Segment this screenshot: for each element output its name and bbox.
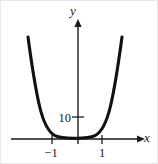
y-tick-label-ten: 10	[59, 111, 72, 125]
arrow-up-icon	[74, 19, 81, 27]
math-figure: x y −1 1 10	[0, 0, 158, 164]
x-axis-label: x	[143, 130, 150, 145]
function-curve	[28, 37, 122, 138]
x-tick-label-minus-one: −1	[44, 146, 57, 160]
x-tick-label-one: 1	[99, 146, 105, 160]
graph-canvas: x y −1 1 10	[1, 1, 158, 164]
y-axis-label: y	[68, 3, 76, 18]
